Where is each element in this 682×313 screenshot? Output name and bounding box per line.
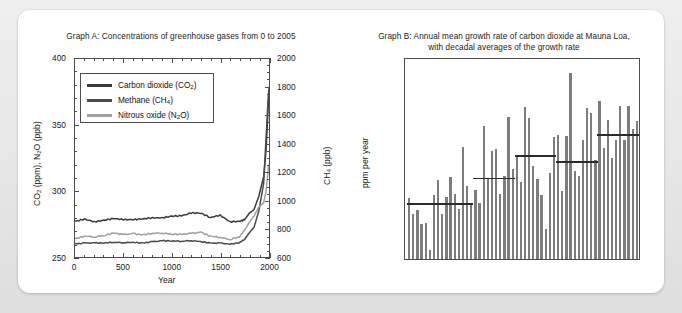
x-minor-tick-top <box>133 58 134 61</box>
x-minor-tick <box>103 255 104 258</box>
y-right-minor-tick <box>267 215 270 216</box>
bar <box>499 194 501 259</box>
decadal-average-line <box>432 203 474 205</box>
decadal-average-line <box>473 178 515 180</box>
bar <box>536 179 538 259</box>
legend-label-co2: Carbon dioxide (CO2) <box>118 81 197 90</box>
bar <box>470 203 472 259</box>
legend-swatch-line-icon <box>87 99 112 101</box>
x-minor-tick-top <box>84 58 85 61</box>
bar <box>412 214 414 259</box>
legend-item-n2o: Nitrous oxide (N2O) <box>87 108 213 123</box>
graph-a-y-left-axis-label: CO2 (ppm), N2O (ppb) <box>32 121 42 206</box>
graph-a-legend: Carbon dioxide (CO2) Methane (CH4) Nitro… <box>80 73 214 123</box>
bar <box>607 120 609 260</box>
x-tick-label: 1500 <box>211 262 230 272</box>
y-right-minor-tick <box>267 79 270 80</box>
bar <box>425 223 427 259</box>
legend-label-n2o: Nitrous oxide (N2O) <box>118 111 189 120</box>
graph-a-y-right-axis-label: CH4 (ppb) <box>322 147 332 185</box>
y-left-tick-label: 400 <box>52 53 66 63</box>
figure-card: Graph A: Concentrations of greenhouse ga… <box>18 10 664 293</box>
graph-b-plot-area <box>404 58 640 260</box>
y-right-minor-tick <box>267 122 270 123</box>
y-minor-tick <box>74 85 77 86</box>
x-tick-label: 1000 <box>162 262 181 272</box>
x-minor-tick-top <box>142 58 143 61</box>
x-minor-tick-top <box>94 58 95 61</box>
y-right-tick-label: 1200 <box>277 167 296 177</box>
bar <box>532 166 534 259</box>
decadal-average-line <box>515 155 557 157</box>
bar <box>478 203 480 259</box>
bar <box>528 118 530 259</box>
y-right-tick-label: 1800 <box>277 82 296 92</box>
graph-b-panel: Graph B: Annual mean growth rate of carb… <box>344 10 664 293</box>
x-tick-top <box>270 58 271 63</box>
y-right-minor-tick <box>267 137 270 138</box>
x-minor-tick <box>94 255 95 258</box>
legend-label-ch4: Methane (CH4) <box>118 96 173 105</box>
x-minor-tick <box>191 255 192 258</box>
x-minor-tick <box>113 255 114 258</box>
bar <box>545 229 547 259</box>
bar <box>603 148 605 259</box>
bar <box>632 129 634 259</box>
bar <box>636 121 638 259</box>
bar <box>623 140 625 259</box>
bar <box>590 113 592 259</box>
x-minor-tick-top <box>103 58 104 61</box>
y-right-minor-tick <box>267 237 270 238</box>
bar <box>561 191 563 259</box>
x-minor-tick <box>250 255 251 258</box>
x-minor-tick <box>182 255 183 258</box>
x-minor-tick <box>260 255 261 258</box>
y-right-minor-tick <box>267 158 270 159</box>
y-minor-tick <box>74 111 77 112</box>
x-minor-tick-top <box>152 58 153 61</box>
bar <box>487 178 489 259</box>
x-minor-tick <box>162 255 163 258</box>
x-tick-top <box>172 58 173 63</box>
x-minor-tick-top <box>182 58 183 61</box>
y-minor-tick <box>74 178 77 179</box>
graph-a-panel: Graph A: Concentrations of greenhouse ga… <box>18 10 344 293</box>
bar <box>503 176 505 259</box>
y-right-minor-tick <box>267 65 270 66</box>
y-left-tick-label: 250 <box>52 253 66 263</box>
bar <box>449 177 451 259</box>
x-minor-tick-top <box>230 58 231 61</box>
x-tick <box>270 253 271 258</box>
bar <box>627 106 629 259</box>
bar <box>569 73 571 259</box>
y-right-minor-tick <box>267 108 270 109</box>
y-right-minor-tick <box>267 244 270 245</box>
legend-item-co2: Carbon dioxide (CO2) <box>87 78 213 93</box>
bar <box>524 107 526 259</box>
bar <box>582 140 584 259</box>
x-minor-tick-top <box>211 58 212 61</box>
bar <box>416 210 418 259</box>
y-right-tick <box>265 144 270 145</box>
bar <box>578 176 580 259</box>
legend-item-ch4: Methane (CH4) <box>87 93 213 108</box>
y-right-tick <box>265 229 270 230</box>
bar <box>474 190 476 259</box>
y-minor-tick <box>74 138 77 139</box>
bar <box>611 158 613 259</box>
decadal-average-line <box>556 161 598 163</box>
y-right-tick-label: 1000 <box>277 196 296 206</box>
y-right-minor-tick <box>267 251 270 252</box>
y-right-tick-label: 2000 <box>277 53 296 63</box>
y-right-tick-label: 1600 <box>277 110 296 120</box>
bar <box>598 101 600 259</box>
x-minor-tick <box>201 255 202 258</box>
series-line-3 <box>75 165 269 240</box>
y-left-tick-label: 350 <box>52 120 66 130</box>
y-minor-tick <box>74 218 77 219</box>
y-right-tick <box>265 115 270 116</box>
y-right-minor-tick <box>267 101 270 102</box>
bar <box>458 209 460 260</box>
decadal-average-line <box>407 203 432 205</box>
bar <box>441 214 443 259</box>
